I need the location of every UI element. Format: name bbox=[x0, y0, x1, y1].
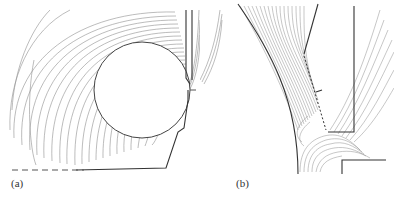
circle-conductor bbox=[94, 42, 190, 138]
field-lines-diagram-a bbox=[0, 0, 200, 198]
field-lines-diagram-b bbox=[200, 0, 394, 198]
arrow-marker bbox=[316, 90, 322, 92]
lower-electrode-step bbox=[342, 160, 386, 174]
panel-label-b: (b) bbox=[236, 177, 249, 189]
electrode-block bbox=[328, 6, 354, 132]
circle-edge-arc bbox=[238, 4, 298, 174]
panel-b: (b) bbox=[200, 0, 394, 198]
panel-label-a: (a) bbox=[11, 177, 23, 189]
panel-a: (a) bbox=[0, 0, 200, 198]
electrode-tip-upper bbox=[304, 4, 318, 54]
